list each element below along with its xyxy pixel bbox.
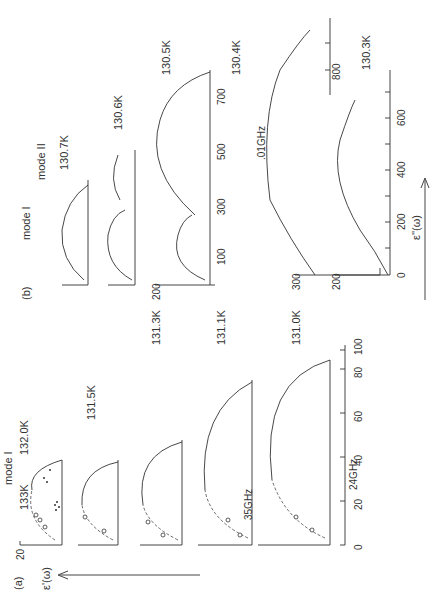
x-axis-arrow <box>421 178 429 300</box>
plot-130.5K <box>155 70 210 285</box>
temp-130.3K: 130.3K <box>360 34 372 70</box>
xtick-a-80: 80 <box>353 366 364 378</box>
xtick-a-100: 100 <box>353 338 364 355</box>
temp-130.6K: 130.6K <box>112 94 124 130</box>
temp-130.4K: 130.4K <box>230 39 242 75</box>
plot-130.6K <box>108 150 135 285</box>
xtick-a-0: 0 <box>353 544 364 550</box>
mode-I-label: mode I <box>20 206 32 240</box>
freq-label-35GHz: 35GHz <box>243 489 254 520</box>
xtick-b-600: 600 <box>396 109 407 126</box>
temp-131.1K: 131.1K <box>215 309 227 345</box>
plot-131.5K <box>78 460 118 545</box>
y-axis-arrow <box>58 571 200 579</box>
ytick-a-20: 20 <box>15 548 26 560</box>
temp-132K: 132.0K <box>18 419 30 455</box>
xtick-a-60: 60 <box>353 410 364 422</box>
temp-131.0K: 131.0K <box>290 309 302 345</box>
temp-130.7K: 130.7K <box>58 134 70 170</box>
temp-133K: 133K <box>18 484 30 510</box>
panel-a-mode-label: mode I <box>2 451 14 485</box>
xtick-b-400: 400 <box>396 161 407 178</box>
x-axis-label: ε''(ω) <box>410 215 422 240</box>
freq-label-24GHz: 24GHz <box>348 459 359 490</box>
panel-a-label: (a) <box>12 577 24 590</box>
ytick-b-300: 300 <box>291 273 302 290</box>
ytick-b-200-upper: 200 <box>151 283 162 300</box>
ytick-b-200: 200 <box>331 273 342 290</box>
xtick-b-200: 200 <box>396 213 407 230</box>
temp-131.3K: 131.3K <box>150 309 162 345</box>
plot-131.3K <box>140 440 182 545</box>
panel-b-label: (b) <box>20 287 32 300</box>
plot-130.7K <box>62 180 88 285</box>
temp-130.5K: 130.5K <box>160 39 172 75</box>
xtick-b-800: 800 <box>331 63 342 80</box>
figure: (a) ε'(ω) mode I 133K 132.0K 131.5K 131.… <box>0 0 435 599</box>
plot-130.3K <box>335 100 390 275</box>
y-axis-label: ε'(ω) <box>40 567 52 590</box>
cole-cole-figure: (a) ε'(ω) mode I 133K 132.0K 131.5K 131.… <box>0 0 435 599</box>
freq-label-01GHz: .01GHz <box>256 126 267 160</box>
panel-a-x-axis <box>340 345 345 545</box>
plot-131.0K <box>258 360 330 545</box>
temp-131.5K: 131.5K <box>85 384 97 420</box>
xtick-a-20: 20 <box>353 498 364 510</box>
xtick-b-upper-500: 500 <box>216 143 227 160</box>
xtick-b-upper-700: 700 <box>216 88 227 105</box>
xtick-b-upper-300: 300 <box>216 198 227 215</box>
xtick-b-0: 0 <box>396 272 407 278</box>
mode-II-label: mode II <box>35 143 47 180</box>
xtick-b-upper-100: 100 <box>216 248 227 265</box>
